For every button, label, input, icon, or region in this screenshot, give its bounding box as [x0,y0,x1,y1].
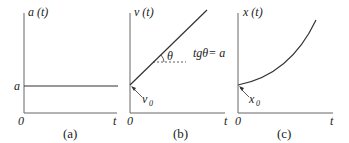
y-axis-label: v (t) [134,5,154,19]
caption: (a) [63,126,77,141]
x-axis-label: t [224,114,228,128]
origin-label: 0 [127,114,133,128]
caption: (b) [173,126,188,141]
y-axis-label: x (t) [242,5,263,19]
origin-label: 0 [18,114,24,128]
caption: (c) [277,126,291,141]
intercept-subscript: 0 [149,99,153,108]
angle-arc [161,55,164,62]
x-axis-label: t [330,114,334,128]
intercept-label: v [142,92,148,106]
y-axis-label: a (t) [28,5,48,19]
panel-c: x (t) x 0 0 t (c) [235,5,334,141]
kinematics-diagram: a (t) a 0 t (a) v (t) θ tgθ= a v 0 0 t (… [0,0,349,143]
level-label: a [14,79,20,93]
angle-label: θ [167,49,173,63]
origin-label: 0 [235,114,241,128]
slope-equation: tgθ= a [193,46,225,60]
x-axis-label: t [113,114,117,128]
intercept-subscript: 0 [256,99,260,108]
panel-a: a (t) a 0 t (a) [14,5,118,141]
position-curve [238,20,316,85]
arrowhead [239,86,244,91]
panel-b: v (t) θ tgθ= a v 0 0 t (b) [127,5,228,141]
intercept-label: x [248,92,255,106]
